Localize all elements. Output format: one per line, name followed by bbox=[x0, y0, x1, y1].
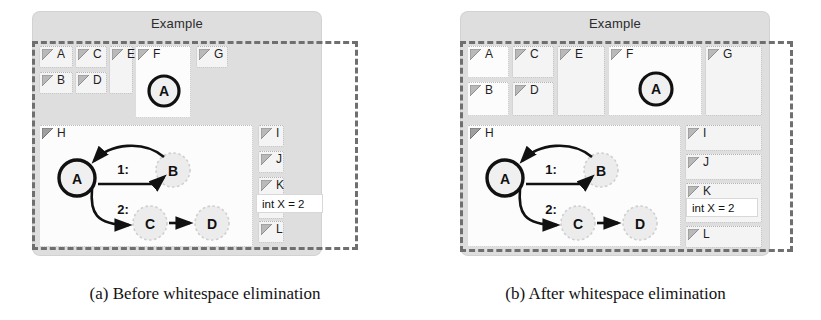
cell-label: B bbox=[485, 83, 493, 97]
graph-node-c-label: C bbox=[573, 216, 583, 232]
graph-edge-label-1: 1: bbox=[117, 162, 129, 177]
cell-label: A bbox=[485, 47, 493, 61]
graph-edge-label-2: 2: bbox=[545, 202, 557, 217]
cell-label: C bbox=[530, 47, 539, 61]
cell-l[interactable]: L bbox=[685, 226, 762, 248]
watch-expression-text: int X = 2 bbox=[692, 202, 735, 214]
cell-label: C bbox=[93, 47, 102, 61]
cell-corner-triangle-icon bbox=[261, 128, 273, 140]
cell-label: G bbox=[214, 47, 223, 61]
cell-f-node-graphic: A bbox=[609, 47, 703, 117]
cell-corner-triangle-icon bbox=[515, 49, 527, 61]
cell-a[interactable]: A bbox=[39, 46, 73, 68]
panel-title-b: Example bbox=[461, 16, 769, 31]
cell-corner-triangle-icon bbox=[688, 186, 700, 198]
figure-b-stage: Example A B C bbox=[410, 0, 821, 262]
cell-h[interactable]: H bbox=[467, 125, 681, 247]
call-graph-b: A B C D 1: 2: bbox=[468, 126, 680, 246]
cell-label: J bbox=[276, 152, 282, 166]
cell-f-node-label: A bbox=[159, 83, 169, 99]
cell-corner-triangle-icon bbox=[78, 75, 90, 87]
figure-a: Example A B C bbox=[0, 0, 410, 320]
cell-corner-triangle-icon bbox=[708, 49, 720, 61]
cell-label: I bbox=[276, 126, 279, 140]
cell-l[interactable]: L bbox=[258, 221, 284, 243]
cell-corner-triangle-icon bbox=[688, 157, 700, 169]
cell-label: E bbox=[127, 47, 135, 61]
figure-a-stage: Example A B C bbox=[0, 0, 410, 262]
cell-f[interactable]: F A bbox=[608, 46, 702, 116]
graph-node-a-label: A bbox=[500, 171, 510, 187]
cell-corner-triangle-icon bbox=[112, 49, 124, 61]
cell-label: K bbox=[276, 178, 284, 192]
cell-label: G bbox=[723, 47, 732, 61]
watch-expression-text: int X = 2 bbox=[262, 198, 305, 210]
cell-a[interactable]: A bbox=[467, 46, 509, 78]
cell-label: L bbox=[703, 227, 710, 241]
cell-label: A bbox=[57, 47, 65, 61]
panel-title-a: Example bbox=[33, 16, 321, 31]
cell-label: E bbox=[575, 47, 583, 61]
cell-i[interactable]: I bbox=[685, 125, 762, 151]
cell-f-node-label: A bbox=[651, 81, 661, 97]
watch-expression-box-a[interactable]: int X = 2 bbox=[256, 194, 323, 213]
cell-corner-triangle-icon bbox=[261, 224, 273, 236]
cell-b[interactable]: B bbox=[467, 82, 509, 116]
cell-corner-triangle-icon bbox=[199, 49, 211, 61]
cell-i[interactable]: I bbox=[258, 125, 284, 147]
graph-node-d-label: D bbox=[207, 216, 217, 232]
cell-e[interactable]: E bbox=[109, 46, 133, 94]
figure-row: Example A B C bbox=[0, 0, 821, 320]
figure-caption-a: (a) Before whitespace elimination bbox=[0, 284, 410, 304]
cell-corner-triangle-icon bbox=[688, 128, 700, 140]
cell-corner-triangle-icon bbox=[560, 49, 572, 61]
cell-corner-triangle-icon bbox=[470, 85, 482, 97]
cell-label: I bbox=[703, 126, 706, 140]
cell-j[interactable]: J bbox=[685, 154, 762, 180]
cell-corner-triangle-icon bbox=[78, 49, 90, 61]
cell-c[interactable]: C bbox=[512, 46, 554, 78]
cell-corner-triangle-icon bbox=[688, 229, 700, 241]
cell-label: J bbox=[703, 155, 709, 169]
cell-label: L bbox=[276, 222, 283, 236]
graph-edge-label-2: 2: bbox=[117, 202, 129, 217]
cell-d[interactable]: D bbox=[512, 82, 554, 116]
cell-label: D bbox=[530, 83, 539, 97]
graph-node-d-label: D bbox=[635, 216, 645, 232]
cell-corner-triangle-icon bbox=[470, 49, 482, 61]
cell-j[interactable]: J bbox=[258, 151, 284, 173]
figure-b: Example A B C bbox=[410, 0, 821, 320]
cell-label: D bbox=[93, 73, 102, 87]
cell-corner-triangle-icon bbox=[515, 85, 527, 97]
cell-label: B bbox=[57, 73, 65, 87]
cell-corner-triangle-icon bbox=[42, 75, 54, 87]
cell-b[interactable]: B bbox=[39, 72, 73, 94]
graph-edge-label-1: 1: bbox=[545, 162, 557, 177]
cell-corner-triangle-icon bbox=[42, 49, 54, 61]
cell-c[interactable]: C bbox=[75, 46, 107, 68]
figure-caption-b: (b) After whitespace elimination bbox=[410, 284, 821, 304]
call-graph-a: A B C D 1: 2: bbox=[40, 126, 252, 246]
graph-node-c-label: C bbox=[145, 216, 155, 232]
graph-node-b-label: B bbox=[168, 163, 178, 179]
cell-d[interactable]: D bbox=[75, 72, 107, 94]
cell-corner-triangle-icon bbox=[261, 154, 273, 166]
cell-e[interactable]: E bbox=[557, 46, 605, 116]
graph-node-b-label: B bbox=[596, 163, 606, 179]
graph-node-a-label: A bbox=[72, 171, 82, 187]
cell-g[interactable]: G bbox=[196, 46, 228, 68]
cell-g[interactable]: G bbox=[705, 46, 762, 116]
cell-f-node-graphic: A bbox=[136, 47, 192, 119]
cell-label: K bbox=[703, 184, 711, 198]
cell-h[interactable]: H bbox=[39, 125, 253, 247]
cell-f[interactable]: F A bbox=[135, 46, 191, 118]
watch-expression-box-b[interactable]: int X = 2 bbox=[686, 198, 758, 217]
cell-corner-triangle-icon bbox=[261, 180, 273, 192]
